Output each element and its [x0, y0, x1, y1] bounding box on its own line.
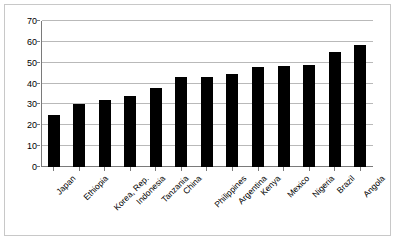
- bar-slot: [220, 21, 246, 167]
- x-label-slot: Japan: [41, 172, 67, 234]
- bar: [303, 65, 315, 167]
- x-axis-tick-mark: [334, 167, 335, 171]
- x-label-slot: Brazil: [322, 172, 348, 234]
- y-axis-tick-mark: [37, 62, 40, 63]
- y-axis-tick-label: 10: [27, 142, 37, 151]
- y-axis-tick-label: 60: [27, 37, 37, 46]
- x-axis-tick-label: Angola: [362, 174, 387, 199]
- bar: [124, 96, 136, 167]
- bar: [226, 74, 238, 167]
- x-label-slot: Mexico: [271, 172, 297, 234]
- bar-slot: [347, 21, 373, 167]
- x-label-slot: Philippines: [194, 172, 220, 234]
- bar-slot: [118, 21, 144, 167]
- bar-slot: [143, 21, 169, 167]
- y-axis-tick-mark: [37, 124, 40, 125]
- y-axis-tick-label: 0: [32, 163, 37, 172]
- x-label-slot: Ethiopia: [67, 172, 93, 234]
- y-axis-tick-label: 40: [27, 79, 37, 88]
- x-label-slot: Nigeria: [296, 172, 322, 234]
- y-axis-tick-label: 70: [27, 17, 37, 26]
- x-axis-tick-mark: [104, 167, 105, 171]
- y-axis-tick-mark: [37, 103, 40, 104]
- x-axis-tick-mark: [232, 167, 233, 171]
- x-axis-tick-mark: [79, 167, 80, 171]
- y-axis-tick-mark: [37, 145, 40, 146]
- x-axis-tick-mark: [206, 167, 207, 171]
- x-axis-tick-mark: [360, 167, 361, 171]
- y-axis-tick-mark: [37, 166, 40, 167]
- x-tick-slot: [92, 167, 118, 171]
- x-axis-tick-mark: [283, 167, 284, 171]
- x-axis-tick-mark: [130, 167, 131, 171]
- bar: [201, 77, 213, 167]
- bar-slot: [245, 21, 271, 167]
- x-tick-slot: [245, 167, 271, 171]
- bar-slot: [169, 21, 195, 167]
- bar: [175, 77, 187, 167]
- y-axis-tick-label: 20: [27, 121, 37, 130]
- bar: [150, 88, 162, 167]
- bar: [329, 52, 341, 167]
- bar-slot: [67, 21, 93, 167]
- y-axis-tick-mark: [37, 20, 40, 21]
- bar: [73, 104, 85, 167]
- x-axis-tick-mark: [155, 167, 156, 171]
- x-axis-tick-mark: [309, 167, 310, 171]
- x-tick-slot: [347, 167, 373, 171]
- x-label-slot: China: [169, 172, 195, 234]
- x-label-slot: Tanzania: [143, 172, 169, 234]
- x-label-slot: Argentina: [220, 172, 246, 234]
- chart-plot-wrapper: 010203040506070 JapanEthiopiaKorea, Rep.…: [5, 5, 390, 235]
- bar: [252, 67, 264, 167]
- y-axis-tick-label: 30: [27, 100, 37, 109]
- bar: [354, 45, 366, 167]
- x-tick-slot: [220, 167, 246, 171]
- x-axis-tick-mark: [258, 167, 259, 171]
- x-tick-slot: [67, 167, 93, 171]
- bar: [48, 115, 60, 167]
- x-label-slot: Indonesia: [118, 172, 144, 234]
- x-label-slot: Kenya: [245, 172, 271, 234]
- bar-series: [41, 21, 373, 167]
- x-tick-slot: [169, 167, 195, 171]
- chart-frame: 010203040506070 JapanEthiopiaKorea, Rep.…: [4, 4, 391, 236]
- x-axis-labels: JapanEthiopiaKorea, Rep.IndonesiaTanzani…: [41, 172, 373, 234]
- bar: [99, 100, 111, 167]
- y-axis-tick-mark: [37, 83, 40, 84]
- x-axis-tick-mark: [181, 167, 182, 171]
- bar: [278, 66, 290, 167]
- bar-slot: [194, 21, 220, 167]
- x-axis-tick-mark: [53, 167, 54, 171]
- bar-slot: [271, 21, 297, 167]
- x-tick-slot: [143, 167, 169, 171]
- y-axis: 010203040506070: [5, 21, 37, 167]
- x-tick-slot: [271, 167, 297, 171]
- x-label-slot: Korea, Rep.: [92, 172, 118, 234]
- bar-slot: [322, 21, 348, 167]
- y-axis-tick-mark: [37, 41, 40, 42]
- x-axis-ticks: [41, 167, 373, 171]
- x-tick-slot: [194, 167, 220, 171]
- bar-slot: [41, 21, 67, 167]
- x-tick-slot: [296, 167, 322, 171]
- x-tick-slot: [41, 167, 67, 171]
- x-tick-slot: [322, 167, 348, 171]
- x-tick-slot: [118, 167, 144, 171]
- y-axis-tick-label: 50: [27, 58, 37, 67]
- bar-slot: [296, 21, 322, 167]
- bar-slot: [92, 21, 118, 167]
- x-label-slot: Angola: [347, 172, 373, 234]
